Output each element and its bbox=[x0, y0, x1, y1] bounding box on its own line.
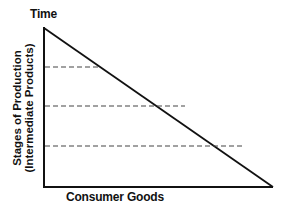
hypotenuse-line bbox=[44, 28, 273, 187]
x-axis-label: Consumer Goods bbox=[66, 190, 164, 204]
triangle-diagram bbox=[0, 0, 285, 214]
